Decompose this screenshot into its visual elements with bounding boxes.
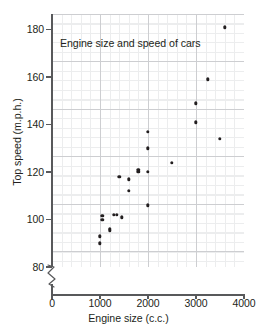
y-axis-title: Top speed (m.p.h.) (11, 67, 23, 217)
x-axis-title: Engine size (c.c.) (0, 312, 257, 324)
y-tick-label: 180 (0, 24, 44, 35)
scatter-chart-figure: 80100120140160180 01000200030004000 Engi… (0, 0, 257, 333)
y-tick-mark (46, 171, 52, 172)
x-tick-label: 3000 (173, 298, 219, 309)
y-tick-mark (46, 219, 52, 220)
x-tick-label: 2000 (125, 298, 171, 309)
y-tick-label: 80 (0, 262, 44, 273)
x-tick-label: 1000 (77, 298, 123, 309)
y-tick-mark (46, 124, 52, 125)
y-tick-mark (46, 266, 52, 267)
y-tick-mark (46, 29, 52, 30)
chart-title: Engine size and speed of cars (60, 37, 200, 49)
x-tick-label: 0 (29, 298, 75, 309)
major-gridlines (52, 14, 244, 267)
y-tick-mark (46, 76, 52, 77)
plot-area (52, 14, 244, 267)
y-axis-line (51, 14, 53, 267)
x-tick-label: 4000 (221, 298, 257, 309)
